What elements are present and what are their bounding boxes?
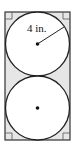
bottom-center-dot (36, 106, 40, 110)
radius-label: 4 in. (27, 22, 47, 34)
top-center-dot (36, 42, 40, 46)
circles-in-rectangle-diagram: 4 in. (0, 0, 77, 145)
